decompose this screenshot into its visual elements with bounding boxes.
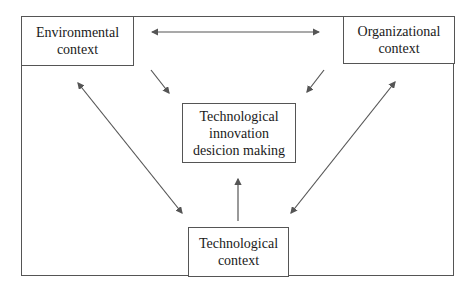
technological-label-line1: Technological (199, 235, 278, 252)
organizational-label-line1: Organizational (358, 23, 441, 40)
arrow-environmental-decision (151, 70, 169, 93)
organizational-label-line2: context (358, 40, 441, 57)
technological-context-box: Technological context (188, 227, 289, 277)
technological-innovation-decision-box: Technological innovation desicion making (182, 103, 296, 163)
arrow-environmental-technological (78, 83, 182, 213)
technological-label-line2: context (199, 252, 278, 269)
arrow-organizational-technological (291, 82, 395, 213)
environmental-label-line1: Environmental (36, 24, 119, 41)
decision-label-line2: innovation (193, 125, 285, 142)
environmental-label-line2: context (36, 41, 119, 58)
arrow-organizational-decision (307, 70, 324, 92)
decision-label-line1: Technological (193, 108, 285, 125)
organizational-context-box: Organizational context (343, 16, 455, 64)
decision-label-line3: desicion making (193, 142, 285, 159)
environmental-context-box: Environmental context (21, 16, 134, 66)
